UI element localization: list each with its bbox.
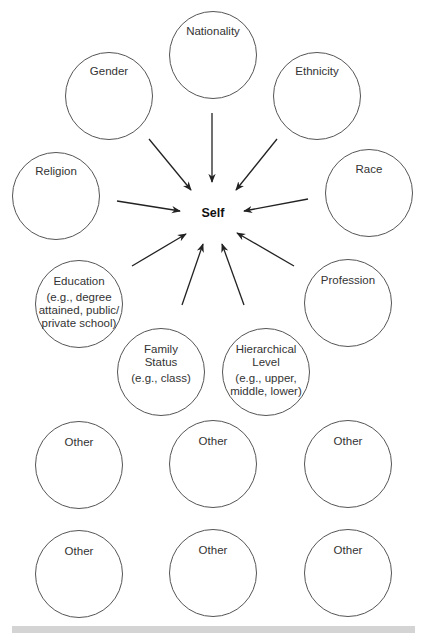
node-label-line: Status — [118, 356, 204, 369]
node-label-line: Other — [36, 436, 122, 449]
node-hierarchical-level: HierarchicalLevel(e.g., upper,middle, lo… — [222, 328, 310, 416]
node-ethnicity: Ethnicity — [273, 52, 361, 140]
node-label: Ethnicity — [274, 65, 360, 78]
node-label-line: private school) — [36, 317, 122, 330]
node-label: Nationality — [170, 25, 256, 38]
arrow-ethnicity-to-self — [236, 139, 277, 190]
node-label: Other — [170, 435, 256, 448]
node-label-line: Hierarchical — [223, 343, 309, 356]
node-family-status: FamilyStatus(e.g., class) — [117, 328, 205, 416]
node-label-line: Other — [305, 544, 391, 557]
node-label: Race — [326, 163, 412, 176]
node-other-3: Other — [304, 420, 392, 508]
arrow-gender-to-self — [149, 139, 191, 190]
node-label: Other — [170, 544, 256, 557]
node-label-line: Other — [170, 544, 256, 557]
node-religion: Religion — [12, 152, 100, 240]
node-label: Gender — [66, 65, 152, 78]
node-gender: Gender — [65, 52, 153, 140]
node-label-line: Nationality — [170, 25, 256, 38]
node-other-2: Other — [169, 420, 257, 508]
node-race: Race — [325, 149, 413, 237]
node-label: HierarchicalLevel(e.g., upper,middle, lo… — [223, 343, 309, 398]
node-label: Profession — [305, 274, 391, 287]
node-label-line: Race — [326, 163, 412, 176]
node-label-line: Other — [170, 435, 256, 448]
arrow-family-status-to-self — [182, 244, 203, 305]
node-label-line: Gender — [66, 65, 152, 78]
node-label: Other — [305, 544, 391, 557]
node-label-line: Ethnicity — [274, 65, 360, 78]
node-label-line: Other — [305, 435, 391, 448]
node-label: Other — [36, 545, 122, 558]
node-label-line: Family — [118, 343, 204, 356]
node-other-1: Other — [35, 421, 123, 509]
arrow-education-to-self — [132, 234, 186, 266]
arrow-hierarchical-level-to-self — [222, 244, 244, 305]
node-label-line: Level — [223, 356, 309, 369]
node-label-line: (e.g., upper, — [223, 372, 309, 385]
node-other-6: Other — [304, 529, 392, 617]
node-label: Religion — [13, 165, 99, 178]
arrow-religion-to-self — [117, 201, 180, 211]
node-other-5: Other — [169, 529, 257, 617]
node-label: Other — [36, 436, 122, 449]
node-label: Education(e.g., degreeattained, public/p… — [36, 275, 122, 330]
node-label: Other — [305, 435, 391, 448]
node-label: FamilyStatus(e.g., class) — [118, 343, 204, 385]
arrow-profession-to-self — [237, 233, 294, 266]
node-label-line: middle, lower) — [223, 385, 309, 398]
bottom-strip — [12, 626, 415, 633]
node-label-line: Education — [36, 275, 122, 288]
self-label: Self — [193, 206, 233, 220]
node-label-line: (e.g., degree — [36, 291, 122, 304]
node-label-line: Profession — [305, 274, 391, 287]
node-education: Education(e.g., degreeattained, public/p… — [35, 260, 123, 348]
node-label-line: (e.g., class) — [118, 372, 204, 385]
arrow-race-to-self — [244, 199, 308, 211]
identity-diagram: NationalityGenderEthnicityReligionRaceEd… — [0, 0, 422, 633]
node-label-line: Other — [36, 545, 122, 558]
node-profession: Profession — [304, 259, 392, 347]
node-other-4: Other — [35, 530, 123, 618]
node-label-line: attained, public/ — [36, 304, 122, 317]
node-nationality: Nationality — [169, 11, 257, 99]
node-label-line: Religion — [13, 165, 99, 178]
